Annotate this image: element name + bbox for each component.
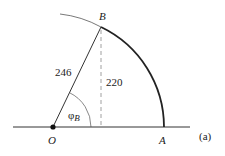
label-a: A: [158, 134, 166, 146]
panel-label: (a): [199, 130, 212, 143]
label-b: B: [99, 10, 106, 22]
label-o: O: [48, 134, 56, 146]
diagram-canvas: B O A 246 220 φB (a): [0, 0, 225, 156]
circle-extension-arc: [60, 14, 101, 27]
length-220: 220: [106, 76, 123, 88]
length-246: 246: [55, 66, 72, 78]
origin-dot: [50, 124, 55, 129]
angle-label: φB: [68, 109, 80, 123]
